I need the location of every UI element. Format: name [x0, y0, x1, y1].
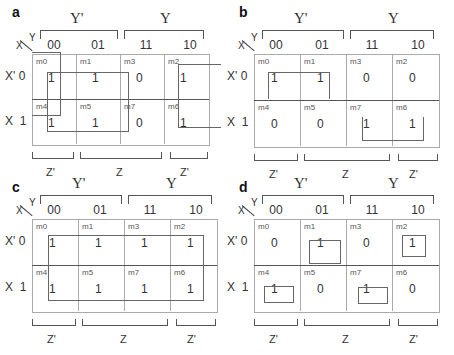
implicant-group-box [178, 64, 221, 128]
row-head: X 1 [227, 115, 248, 129]
minterm-label: m1 [82, 222, 93, 231]
cell-value: 0 [317, 117, 324, 131]
col-group-label-yprime: Y' [294, 175, 308, 192]
minterm-label: m2 [396, 57, 407, 66]
implicant-group-box [264, 286, 294, 303]
cell-value: 0 [409, 282, 416, 296]
cell-value: 0 [363, 236, 370, 250]
cell-value: 0 [363, 71, 370, 85]
col-var-label: Y [251, 197, 258, 208]
bracket-zprime-right [398, 154, 438, 161]
minterm-label: m4 [258, 103, 269, 112]
col-head: 11 [128, 203, 172, 217]
col-head: 01 [76, 38, 120, 52]
col-var-label: Y [251, 32, 258, 43]
bracket-zprime-right [398, 319, 438, 326]
col-head: 10 [174, 203, 218, 217]
row-head: X' 0 [227, 234, 247, 248]
row-head: X' 0 [227, 69, 247, 83]
col-var-label: Y [29, 197, 36, 208]
minterm-label: m6 [396, 103, 407, 112]
col-group-label-y: Y [388, 10, 399, 27]
col-head: 10 [168, 38, 212, 52]
bottom-label-z: Z [120, 333, 127, 345]
col-group-label-yprime: Y' [72, 175, 86, 192]
panel-label: d [239, 179, 248, 195]
kmap-panel-b: bY'Y00011110XYX' 0X 1m01m11m30m20m40m50m… [227, 0, 454, 177]
kmap-panel-a: aY'Y00011110XYX' 0X 1m01m11m30m21m41m51m… [0, 0, 227, 177]
bracket-z [304, 319, 390, 326]
col-head: 11 [350, 38, 394, 52]
col-head: 00 [254, 38, 298, 52]
col-group-label-y: Y [160, 10, 171, 27]
col-group-label-yprime: Y' [70, 10, 84, 27]
col-group-label-yprime: Y' [294, 10, 308, 27]
col-head: 01 [300, 38, 344, 52]
row-head: X 1 [227, 280, 248, 294]
bottom-label-zprime-right: Z' [187, 333, 196, 345]
cell-value: 0 [409, 71, 416, 85]
col-var-label: Y [29, 32, 36, 43]
row-head: X 1 [5, 114, 26, 128]
minterm-label: m4 [36, 268, 47, 277]
cell-value: 0 [317, 282, 324, 296]
row-head: X 1 [5, 280, 26, 294]
minterm-label: m1 [304, 222, 315, 231]
implicant-group-box [402, 235, 426, 257]
bracket-z [82, 319, 168, 326]
minterm-label: m0 [258, 57, 269, 66]
cell-value: 0 [271, 117, 278, 131]
minterm-label: m6 [396, 268, 407, 277]
kmap-panel-c: cY'Y00011110XYX' 0X 1m01m11m31m21m41m51m… [0, 177, 227, 354]
grid-row-divider [254, 100, 439, 101]
minterm-label: m1 [304, 57, 315, 66]
minterm-label: m2 [396, 222, 407, 231]
grid-row-divider [254, 265, 439, 266]
bracket-zprime-left [254, 319, 298, 326]
row-head: X' 0 [5, 234, 25, 248]
implicant-group-box [32, 52, 61, 116]
col-head: 00 [254, 203, 298, 217]
minterm-label: m0 [36, 222, 47, 231]
bracket-zprime-left [254, 154, 298, 161]
col-head: 10 [396, 38, 440, 52]
bracket-zprime-right [176, 319, 216, 326]
bracket-zprime-right [170, 152, 208, 159]
minterm-label: m5 [304, 103, 315, 112]
row-head: X' 0 [5, 69, 25, 83]
implicant-group-box [358, 287, 388, 304]
col-group-label-y: Y [388, 175, 399, 192]
bracket-zprime-left [32, 152, 74, 159]
col-group-label-y: Y [166, 175, 177, 192]
minterm-label: m4 [258, 268, 269, 277]
panel-label: c [12, 179, 20, 195]
col-head: 10 [396, 203, 440, 217]
bottom-label-zprime-left: Z' [47, 333, 56, 345]
minterm-label: m7 [350, 268, 361, 277]
implicant-group-box [48, 235, 204, 301]
minterm-label: m0 [258, 222, 269, 231]
col-head: 11 [124, 38, 168, 52]
bottom-label-zprime-left: Z' [269, 333, 278, 345]
panel-label: a [12, 4, 20, 20]
cell-value: 0 [136, 116, 143, 130]
implicant-group-box [268, 72, 330, 99]
minterm-label: m3 [124, 57, 135, 66]
col-head: 11 [350, 203, 394, 217]
minterm-label: m3 [350, 222, 361, 231]
panel-label: b [239, 4, 248, 20]
implicant-group-box [362, 117, 424, 141]
cell-value: 0 [271, 236, 278, 250]
col-head: 00 [32, 38, 76, 52]
bracket-zprime-left [32, 319, 76, 326]
bracket-z [304, 154, 390, 161]
minterm-label: m7 [350, 103, 361, 112]
minterm-label: m3 [350, 57, 361, 66]
minterm-label: m1 [80, 57, 91, 66]
minterm-label: m2 [174, 222, 185, 231]
bracket-z [80, 152, 162, 159]
implicant-group-box [309, 240, 341, 264]
col-head: 01 [78, 203, 122, 217]
col-head: 00 [32, 203, 76, 217]
minterm-label: m3 [128, 222, 139, 231]
